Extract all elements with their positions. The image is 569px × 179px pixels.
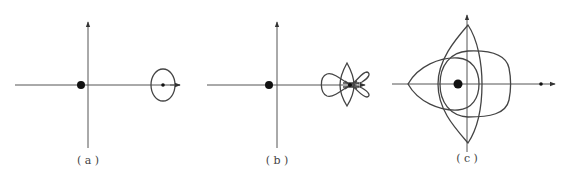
panel-label-c: ( c ) — [456, 152, 478, 165]
figure-canvas: ( a ) ( b ) — [0, 0, 569, 179]
panel-label-a: ( a ) — [77, 154, 99, 167]
panel-c: ( c ) — [392, 15, 555, 165]
panel-label-b: ( b ) — [266, 154, 289, 167]
panel-a: ( a ) — [15, 22, 180, 167]
small-mass-dot — [539, 82, 543, 86]
large-mass-dot — [77, 81, 85, 89]
small-mass-dot — [348, 83, 352, 87]
panel-b: ( b ) — [207, 22, 369, 167]
small-mass-dot — [161, 83, 165, 87]
large-mass-dot — [454, 80, 463, 89]
large-mass-dot — [265, 81, 273, 89]
